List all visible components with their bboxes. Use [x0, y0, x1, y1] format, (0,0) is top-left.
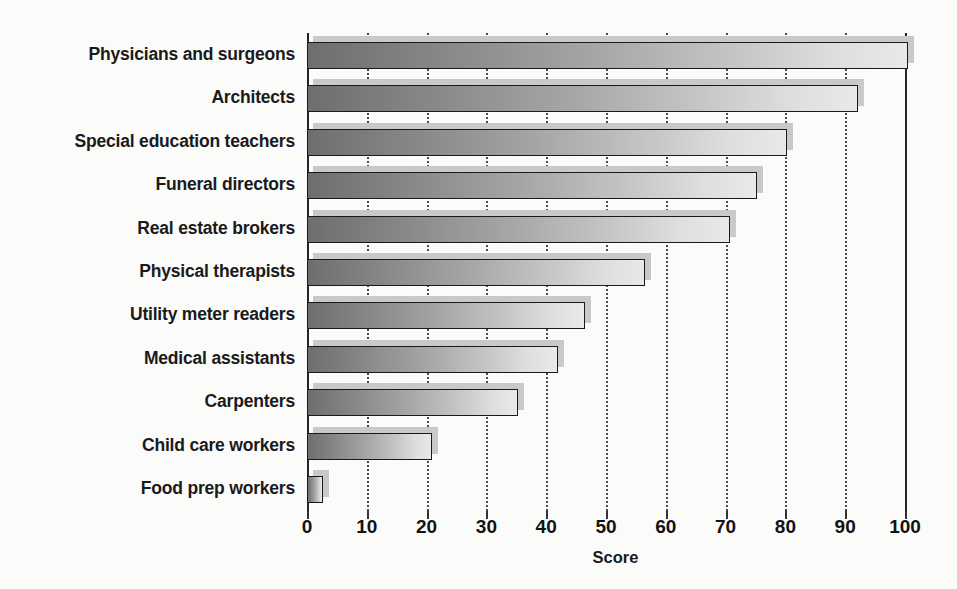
bar-row [307, 33, 905, 76]
x-axis-title-text: Score [593, 548, 639, 566]
category-label: Physical therapists [0, 261, 295, 282]
bar [307, 476, 323, 503]
bar-row [307, 207, 905, 250]
bar-row [307, 380, 905, 423]
bar-row [307, 337, 905, 380]
bar [307, 302, 585, 329]
bar [307, 129, 787, 156]
x-tick-label: 20 [397, 516, 457, 538]
category-label: Special education teachers [0, 131, 295, 152]
bar [307, 42, 908, 69]
bar [307, 216, 730, 243]
plot-area [307, 33, 905, 511]
category-label: Food prep workers [0, 478, 295, 499]
bar-chart-figure: Physicians and surgeonsArchitectsSpecial… [0, 0, 957, 589]
bar-row [307, 467, 905, 510]
bar [307, 172, 757, 199]
category-label: Funeral directors [0, 174, 295, 195]
x-tick-label: 100 [875, 516, 935, 538]
x-tick-label: 0 [277, 516, 337, 538]
bar-row [307, 76, 905, 119]
x-tick-label: 50 [576, 516, 636, 538]
bar [307, 389, 518, 416]
x-axis-title: Score [0, 548, 957, 567]
bar [307, 346, 558, 373]
bar [307, 259, 645, 286]
bar-row [307, 250, 905, 293]
category-label: Architects [0, 87, 295, 108]
category-label: Real estate brokers [0, 218, 295, 239]
category-label: Physicians and surgeons [0, 44, 295, 65]
x-tick-label: 40 [516, 516, 576, 538]
bar-row [307, 293, 905, 336]
bar [307, 433, 432, 460]
category-label: Medical assistants [0, 348, 295, 369]
gridline-100 [905, 33, 907, 519]
bar-row [307, 163, 905, 206]
category-label: Carpenters [0, 391, 295, 412]
x-tick-label: 70 [696, 516, 756, 538]
category-label: Utility meter readers [0, 304, 295, 325]
x-tick-label: 90 [815, 516, 875, 538]
x-tick-label: 30 [456, 516, 516, 538]
bar [307, 85, 858, 112]
x-tick-label: 10 [337, 516, 397, 538]
x-tick-label: 80 [755, 516, 815, 538]
bar-row [307, 424, 905, 467]
category-label: Child care workers [0, 435, 295, 456]
bar-row [307, 120, 905, 163]
x-tick-label: 60 [636, 516, 696, 538]
